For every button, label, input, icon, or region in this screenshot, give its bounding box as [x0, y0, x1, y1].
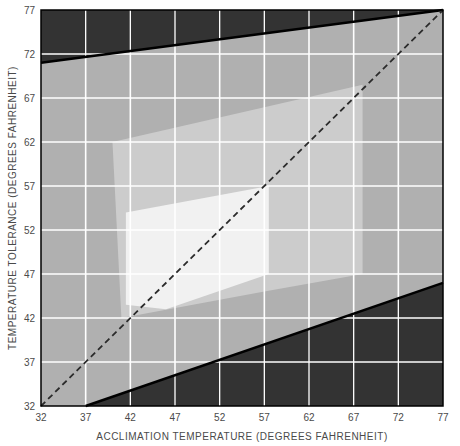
y-tick-label: 42	[24, 313, 36, 324]
x-tick-label: 32	[35, 412, 47, 423]
x-tick-label: 62	[303, 412, 315, 423]
y-axis-title: TEMPERATURE TOLERANCE (DEGREES FAHRENHEI…	[7, 66, 18, 350]
y-tick-labels: 32374247525762677277	[24, 5, 36, 412]
thermal-tolerance-chart: 32374247525762677277 3237424752576267727…	[0, 0, 460, 446]
y-tick-label: 47	[24, 269, 36, 280]
y-tick-label: 37	[24, 357, 36, 368]
x-tick-label: 72	[393, 412, 405, 423]
x-tick-label: 57	[259, 412, 271, 423]
y-tick-label: 32	[24, 401, 36, 412]
x-tick-label: 52	[214, 412, 226, 423]
x-axis-title: ACCLIMATION TEMPERATURE (DEGREES FAHRENH…	[96, 431, 387, 442]
x-tick-label: 77	[437, 412, 449, 423]
chart-figure: 32374247525762677277 3237424752576267727…	[0, 0, 460, 446]
x-tick-label: 42	[125, 412, 137, 423]
y-tick-label: 72	[24, 49, 36, 60]
y-tick-label: 67	[24, 93, 36, 104]
x-tick-labels: 32374247525762677277	[35, 412, 449, 423]
x-tick-label: 47	[169, 412, 181, 423]
x-tick-label: 37	[80, 412, 92, 423]
x-tick-label: 67	[348, 412, 360, 423]
y-tick-label: 57	[24, 181, 36, 192]
y-tick-label: 77	[24, 5, 36, 16]
y-tick-label: 52	[24, 225, 36, 236]
y-tick-label: 62	[24, 137, 36, 148]
